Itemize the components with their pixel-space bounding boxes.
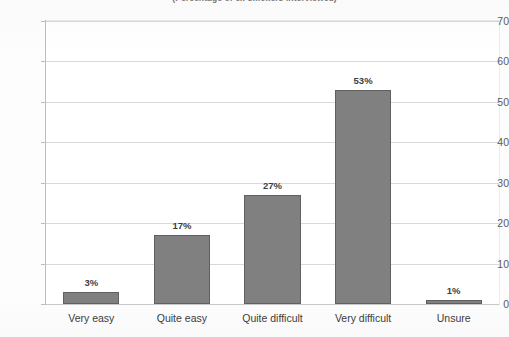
y-tick-mark-20 xyxy=(41,223,45,224)
y-tick-mark-60 xyxy=(41,61,45,62)
bar-value-label: 27% xyxy=(244,180,300,191)
bar[interactable] xyxy=(335,90,391,304)
bar[interactable] xyxy=(154,235,210,304)
bar-slot: 53% xyxy=(335,21,391,304)
y-tick-mark-10 xyxy=(41,264,45,265)
x-axis-label: Quite easy xyxy=(137,312,228,324)
y-tick-mark-30 xyxy=(41,183,45,184)
y-tick-mark-0 xyxy=(41,304,45,305)
bar[interactable] xyxy=(63,292,119,304)
x-axis-label: Very difficult xyxy=(318,312,409,324)
bar-slot: 17% xyxy=(154,21,210,304)
bar-slot: 27% xyxy=(244,21,300,304)
y-tick-mark-40 xyxy=(41,142,45,143)
y-tick-mark-70 xyxy=(41,21,45,22)
x-axis-label: Very easy xyxy=(46,312,137,324)
gridline-0 xyxy=(46,304,499,305)
chart-title: (Percentage of ex-smokers interviewed) xyxy=(0,0,509,3)
x-axis-category-labels: Very easyQuite easyQuite difficultVery d… xyxy=(46,312,499,332)
bar-slot: 1% xyxy=(426,21,482,304)
bar-value-label: 53% xyxy=(335,75,391,86)
x-axis-label: Unsure xyxy=(408,312,499,324)
bars-group: 3%17%27%53%1% xyxy=(46,21,499,304)
bar[interactable] xyxy=(426,300,482,304)
bar[interactable] xyxy=(244,195,300,304)
bar-value-label: 17% xyxy=(154,220,210,231)
bar-value-label: 1% xyxy=(426,285,482,296)
bar-chart-screenshot: (Percentage of ex-smokers interviewed) 0… xyxy=(0,0,509,337)
x-axis-label: Quite difficult xyxy=(227,312,318,324)
y-tick-mark-50 xyxy=(41,102,45,103)
bar-value-label: 3% xyxy=(63,277,119,288)
bar-slot: 3% xyxy=(63,21,119,304)
